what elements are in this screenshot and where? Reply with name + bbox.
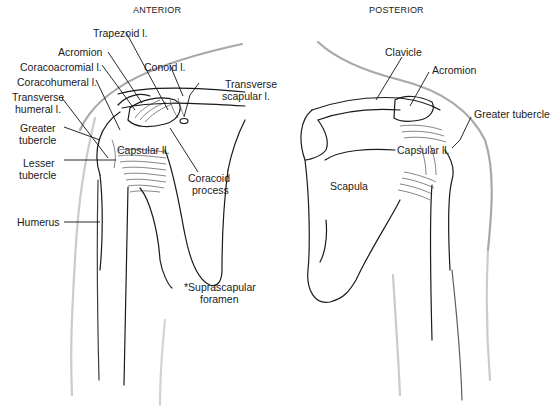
label-suprascapular-foramen-2: foramen xyxy=(200,293,239,305)
label-humerus: Humerus xyxy=(17,216,60,228)
label-greater-tubercle-anterior-1: Greater xyxy=(20,122,56,134)
label-scapula: Scapula xyxy=(330,180,368,192)
label-capsular-ligaments-anterior: Capsular ll. xyxy=(117,144,170,156)
label-transverse-humeral-2: humeral l. xyxy=(15,103,61,115)
anterior-title: ANTERIOR xyxy=(133,5,181,15)
label-coracoid-process-1: Coracoid xyxy=(188,172,230,184)
label-coracohumeral-ligament: Coracohumeral l. xyxy=(17,76,97,88)
label-coracoid-process-2: process xyxy=(192,184,229,196)
posterior-bones xyxy=(301,96,462,400)
label-greater-tubercle-posterior: Greater tubercle xyxy=(474,108,550,120)
label-lesser-tubercle-1: Lesser xyxy=(23,157,55,169)
shoulder-ligaments-diagram: ANTERIOR POSTERIOR Trapezoid l. Acromion… xyxy=(0,0,556,412)
label-clavicle: Clavicle xyxy=(385,46,422,58)
label-acromion-posterior: Acromion xyxy=(432,64,476,76)
anterior-bones xyxy=(97,88,245,385)
label-transverse-humeral-1: Transverse xyxy=(12,91,64,103)
label-transverse-scapular-1: Transverse xyxy=(225,78,277,90)
posterior-ligament-fibers xyxy=(398,125,446,200)
label-lesser-tubercle-2: tubercle xyxy=(19,169,56,181)
label-conoid-ligament: Conoid l. xyxy=(144,61,185,73)
leader-lines xyxy=(62,32,471,222)
label-suprascapular-foramen-1: *Suprascapular xyxy=(184,281,256,293)
label-trapezoid-ligament: Trapezoid l. xyxy=(93,27,147,39)
posterior-title: POSTERIOR xyxy=(369,5,424,15)
posterior-body-outline xyxy=(318,42,492,395)
label-coracoacromial-ligament: Coracoacromial l. xyxy=(20,61,102,73)
label-transverse-scapular-2: scapular l. xyxy=(222,90,270,102)
label-greater-tubercle-anterior-2: tubercle xyxy=(19,134,56,146)
label-acromion-anterior: Acromion xyxy=(58,46,102,58)
label-capsular-ligaments-posterior: Capsular ll. xyxy=(397,144,450,156)
